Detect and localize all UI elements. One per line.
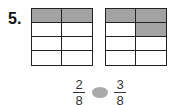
grid-cell [32,51,62,65]
grid-cell [136,9,166,23]
grid-cell [62,37,92,51]
problem-number: 5. [8,11,21,27]
grid-cell [32,37,62,51]
grid-cell [106,9,136,23]
grid-cell [62,23,92,37]
grid-cell [136,37,166,51]
grid-cell [106,23,136,37]
comparison-blank-oval[interactable] [92,87,108,98]
denominator: 8 [114,94,126,105]
fraction-grid-left [31,8,93,66]
grid-cell [106,37,136,51]
fraction-left: 2 8 [73,78,85,105]
grid-cell [136,23,166,37]
grid-cell [136,51,166,65]
grid-cell [32,9,62,23]
numerator: 2 [73,78,85,91]
denominator: 8 [73,94,85,105]
grid-cell [62,51,92,65]
fraction-right: 3 8 [114,78,126,105]
grid-cell [62,9,92,23]
fraction-grid-right [105,8,167,66]
numerator: 3 [114,78,126,91]
grid-cell [32,23,62,37]
grid-cell [106,51,136,65]
